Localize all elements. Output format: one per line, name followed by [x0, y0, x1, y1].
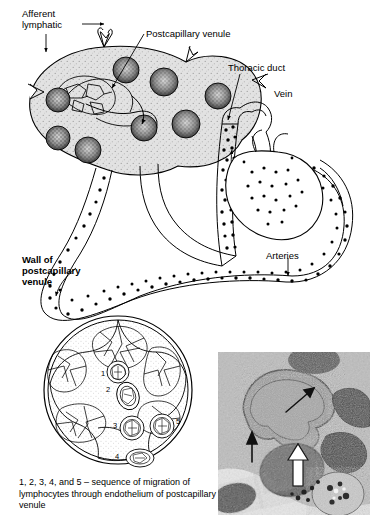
- label-postcapillary-venule: Postcapillary venule: [146, 28, 231, 39]
- label-wall-of-postcapillary-venule: Wall of postcapillary venule: [22, 254, 81, 287]
- postcapillary-venule-cross-section: [44, 316, 192, 467]
- label-arteries: Arteries: [266, 250, 299, 261]
- label-afferent-lymphatic: Afferent lymphatic: [22, 8, 62, 30]
- stage-number-3: 3: [113, 421, 117, 430]
- stage-number-5: 5: [176, 417, 180, 426]
- stage-number-1: 1: [101, 369, 105, 378]
- label-thoracic-duct: Thoracic duct: [228, 62, 285, 73]
- heart: [226, 130, 323, 240]
- figure-caption: 1, 2, 3, 4, and 5 – sequence of migratio…: [19, 477, 219, 512]
- stage-number-2: 2: [106, 385, 110, 394]
- label-vein: Vein: [274, 88, 293, 99]
- figure-canvas: Afferent lymphatic Postcapillary venule …: [0, 0, 381, 522]
- electron-micrograph: [218, 352, 370, 515]
- micrograph-artwork: [218, 352, 370, 515]
- stage-number-4: 4: [115, 452, 119, 461]
